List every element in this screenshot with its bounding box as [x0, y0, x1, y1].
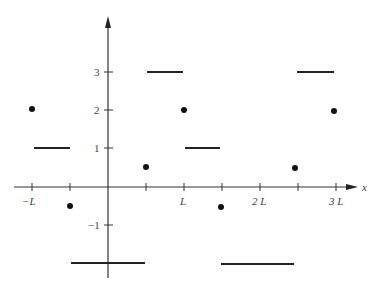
x-tick-label-L: L — [179, 195, 186, 207]
dot-3-half-L — [218, 204, 224, 210]
x-tick-label-neg-L: −L — [22, 195, 36, 207]
dot-5-half-L — [292, 165, 298, 171]
x-tick-label-2L: 2 L — [252, 195, 266, 207]
x-tick-label-3L: 3 L — [328, 195, 343, 207]
step-segments — [34, 72, 334, 264]
dot-3L — [331, 108, 337, 114]
y-axis — [104, 16, 113, 278]
fourier-step-chart: x −L L 2 L 3 L 3 2 1 −1 — [0, 0, 378, 292]
dot-neg-half-L — [67, 203, 73, 209]
dot-L — [181, 107, 187, 113]
dot-half-L — [143, 164, 149, 170]
x-axis-label: x — [361, 181, 367, 193]
y-tick-label-3: 3 — [94, 66, 100, 78]
y-axis-arrow-icon — [105, 16, 111, 28]
y-tick-label-1: 1 — [94, 142, 100, 154]
dot-neg-L — [29, 106, 35, 112]
x-axis — [14, 183, 358, 191]
y-tick-label-2: 2 — [94, 104, 100, 116]
x-axis-arrow-icon — [346, 184, 358, 190]
y-tick-label-neg1: −1 — [88, 219, 100, 231]
